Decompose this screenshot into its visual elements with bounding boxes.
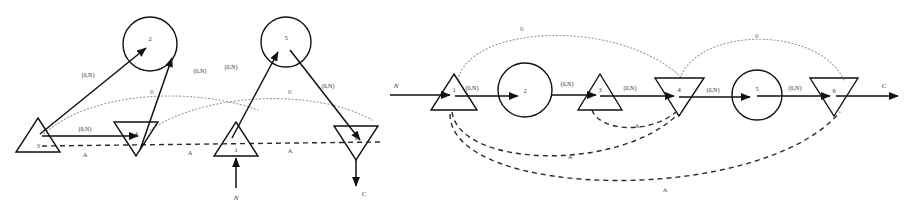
right-node-5[interactable]: 5 [732, 70, 782, 120]
left-dashed-line-group: A A A [42, 142, 380, 158]
right-arc-a-label-2: A [568, 153, 573, 160]
left-dashed-label-3: A [288, 147, 293, 154]
left-edge-label-1: (0,N) [82, 72, 95, 79]
right-output-arrow: C [836, 82, 898, 96]
left-edge-label-3: (0,N) [194, 68, 207, 75]
right-arc-a-label-1: A [635, 122, 640, 129]
right-arc-r-1 [458, 35, 682, 80]
left-arc-r-2 [150, 99, 372, 130]
right-diagram: R R A A A (0,N) (0,N) (0,N) (0,N) (0,N) [390, 25, 898, 193]
right-edge-label-1: (0,N) [466, 85, 479, 92]
left-node-2-label: 2 [148, 35, 151, 42]
left-edge-label-4: (0,N) [225, 64, 238, 71]
right-node-3[interactable]: 3 [578, 74, 622, 110]
right-arc-a-label-3: A [663, 186, 668, 193]
right-node-6-label: 6 [832, 87, 836, 94]
network-diagram-pair: R R A A A (0,N) (0,N) (0,N) (0,N) (0,N) … [0, 0, 908, 208]
left-edge-3-to-2 [40, 48, 146, 134]
right-node-4-label: 4 [677, 86, 681, 93]
left-node-5-label: 5 [284, 34, 287, 41]
right-edge-label-2: (0,N) [561, 81, 574, 88]
right-dashed-arc-group: A A A [450, 110, 840, 193]
triangle-down-shape [810, 78, 858, 116]
left-edge-label-5: (0,N) [322, 83, 335, 90]
right-node-1[interactable]: 1 [431, 74, 477, 110]
right-edge-label-3: (0,N) [624, 85, 637, 92]
left-node-2[interactable]: 2 [123, 17, 177, 71]
circle-shape [123, 17, 177, 71]
left-arc-r-1 [44, 96, 258, 134]
right-arc-r-2 [680, 39, 844, 80]
left-node-5[interactable]: 5 [261, 17, 311, 67]
left-input-arrow: N [233, 158, 239, 202]
right-arc-a-2 [452, 112, 678, 156]
circle-shape [261, 17, 311, 67]
right-node-2-label: 2 [523, 87, 526, 94]
left-edge-4-to-2 [140, 58, 172, 150]
left-arc-r-label-2: R [288, 88, 293, 95]
right-edge-label-4: (0,N) [707, 87, 720, 94]
circle-shape [732, 70, 782, 120]
left-output-label: C [362, 190, 367, 198]
right-arc-r-label-2: R [755, 32, 760, 39]
left-node-3-label: 3 [36, 142, 39, 149]
figure-canvas: R R A A A (0,N) (0,N) (0,N) (0,N) (0,N) … [0, 0, 908, 208]
right-node-3-label: 3 [598, 86, 601, 93]
left-edge-1-to-5 [232, 52, 278, 138]
left-node-1-label: 1 [234, 146, 237, 153]
right-arc-r-label-1: R [520, 25, 525, 32]
right-node-5-label: 5 [755, 85, 758, 92]
left-dashed-line [42, 142, 380, 146]
right-arc-a-3 [450, 112, 840, 181]
right-edge-label-5: (0,N) [789, 85, 802, 92]
right-solid-edge-group: (0,N) (0,N) (0,N) (0,N) (0,N) [455, 81, 830, 97]
right-input-label: N [393, 82, 399, 90]
right-node-6[interactable]: 6 [810, 78, 858, 116]
right-output-label: C [882, 82, 887, 90]
triangle-down-shape [114, 122, 158, 156]
left-diagram: R R A A A (0,N) (0,N) (0,N) (0,N) (0,N) … [16, 17, 380, 202]
left-output-arrow: C [356, 160, 367, 198]
left-dotted-arc-group: R R [44, 88, 372, 134]
left-solid-edge-group: (0,N) (0,N) (0,N) (0,N) (0,N) [40, 48, 360, 150]
right-node-1-label: 1 [452, 86, 455, 93]
left-arc-r-label-1: R [150, 88, 155, 95]
left-node-4[interactable]: 4 [114, 122, 158, 156]
left-dashed-label-2: A [188, 149, 193, 156]
left-node-1[interactable]: 1 [214, 122, 258, 156]
right-node-2[interactable]: 2 [498, 63, 552, 117]
left-input-label: N [233, 194, 239, 202]
right-dotted-arc-group: R R [458, 25, 844, 80]
left-edge-label-2: (0,N) [79, 126, 92, 133]
left-dashed-label-1: A [83, 151, 88, 158]
